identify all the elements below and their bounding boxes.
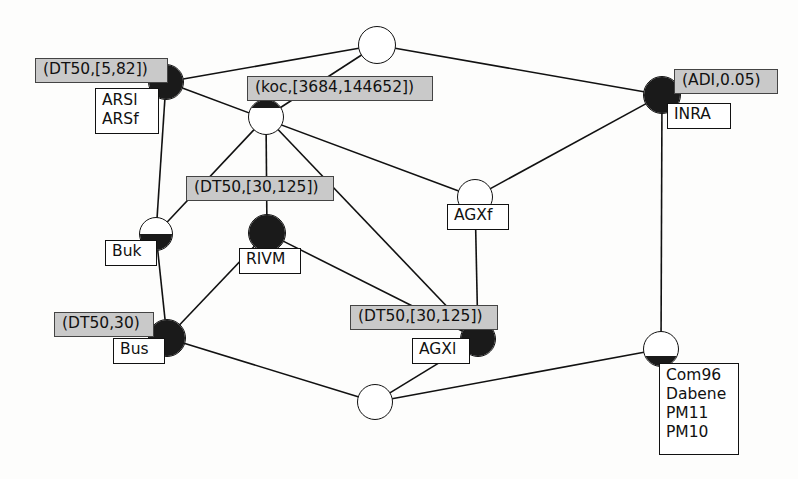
node-label-buk: Buk [105,240,157,266]
edge-buk-bus [158,249,166,321]
node-label-inra: INRA [667,103,731,129]
node-fill-rivm [248,214,286,252]
label-line: PM10 [666,423,732,442]
label-line: INRA [674,106,724,123]
node-com96[interactable] [643,331,679,367]
label-line: Com96 [666,366,732,385]
label-line: Dabene [666,385,732,404]
edge-koc-rivm [266,133,267,216]
prop-dt50-5-82: (DT50,[5,82]) [35,58,168,83]
label-line: Buk [112,243,150,260]
prop-dt50-30: (DT50,30) [54,312,154,337]
node-rivm[interactable] [248,214,286,252]
edge-inra-agxf [489,103,647,189]
label-line: AGXl [419,341,463,358]
label-line: AGXf [454,207,502,224]
label-line: RIVM [246,251,294,268]
prop-koc: (koc,[3684,144652]) [247,76,433,101]
node-label-agxl: AGXl [412,338,470,364]
edge-arsl-top-center [182,48,360,79]
prop-adi: (ADI,0.05) [674,69,778,94]
node-label-agxf: AGXf [447,204,509,230]
node-label-arsl: ARSlARSf [95,88,159,134]
prop-dt50-30-125-a: (DT50,[30,125]) [186,176,334,201]
label-line: Bus [120,341,158,358]
label-line: ARSl [102,91,152,110]
prop-dt50-30-125-b: (DT50,[30,125]) [350,305,498,330]
label-line: ARSf [102,110,152,129]
node-label-com96: Com96DabenePM11PM10 [659,363,739,455]
edge-inra-com96 [661,112,662,333]
edge-bus-bottom-center [183,343,359,397]
node-bottom-center[interactable] [357,384,393,420]
label-line: PM11 [666,404,732,423]
node-label-bus: Bus [113,338,165,364]
diagram-canvas: ARSlARSfINRABukRIVMAGXfBusAGXlCom96Daben… [0,0,798,479]
node-koc[interactable] [248,99,284,135]
node-label-rivm: RIVM [239,248,301,274]
node-top-center[interactable] [358,26,396,64]
